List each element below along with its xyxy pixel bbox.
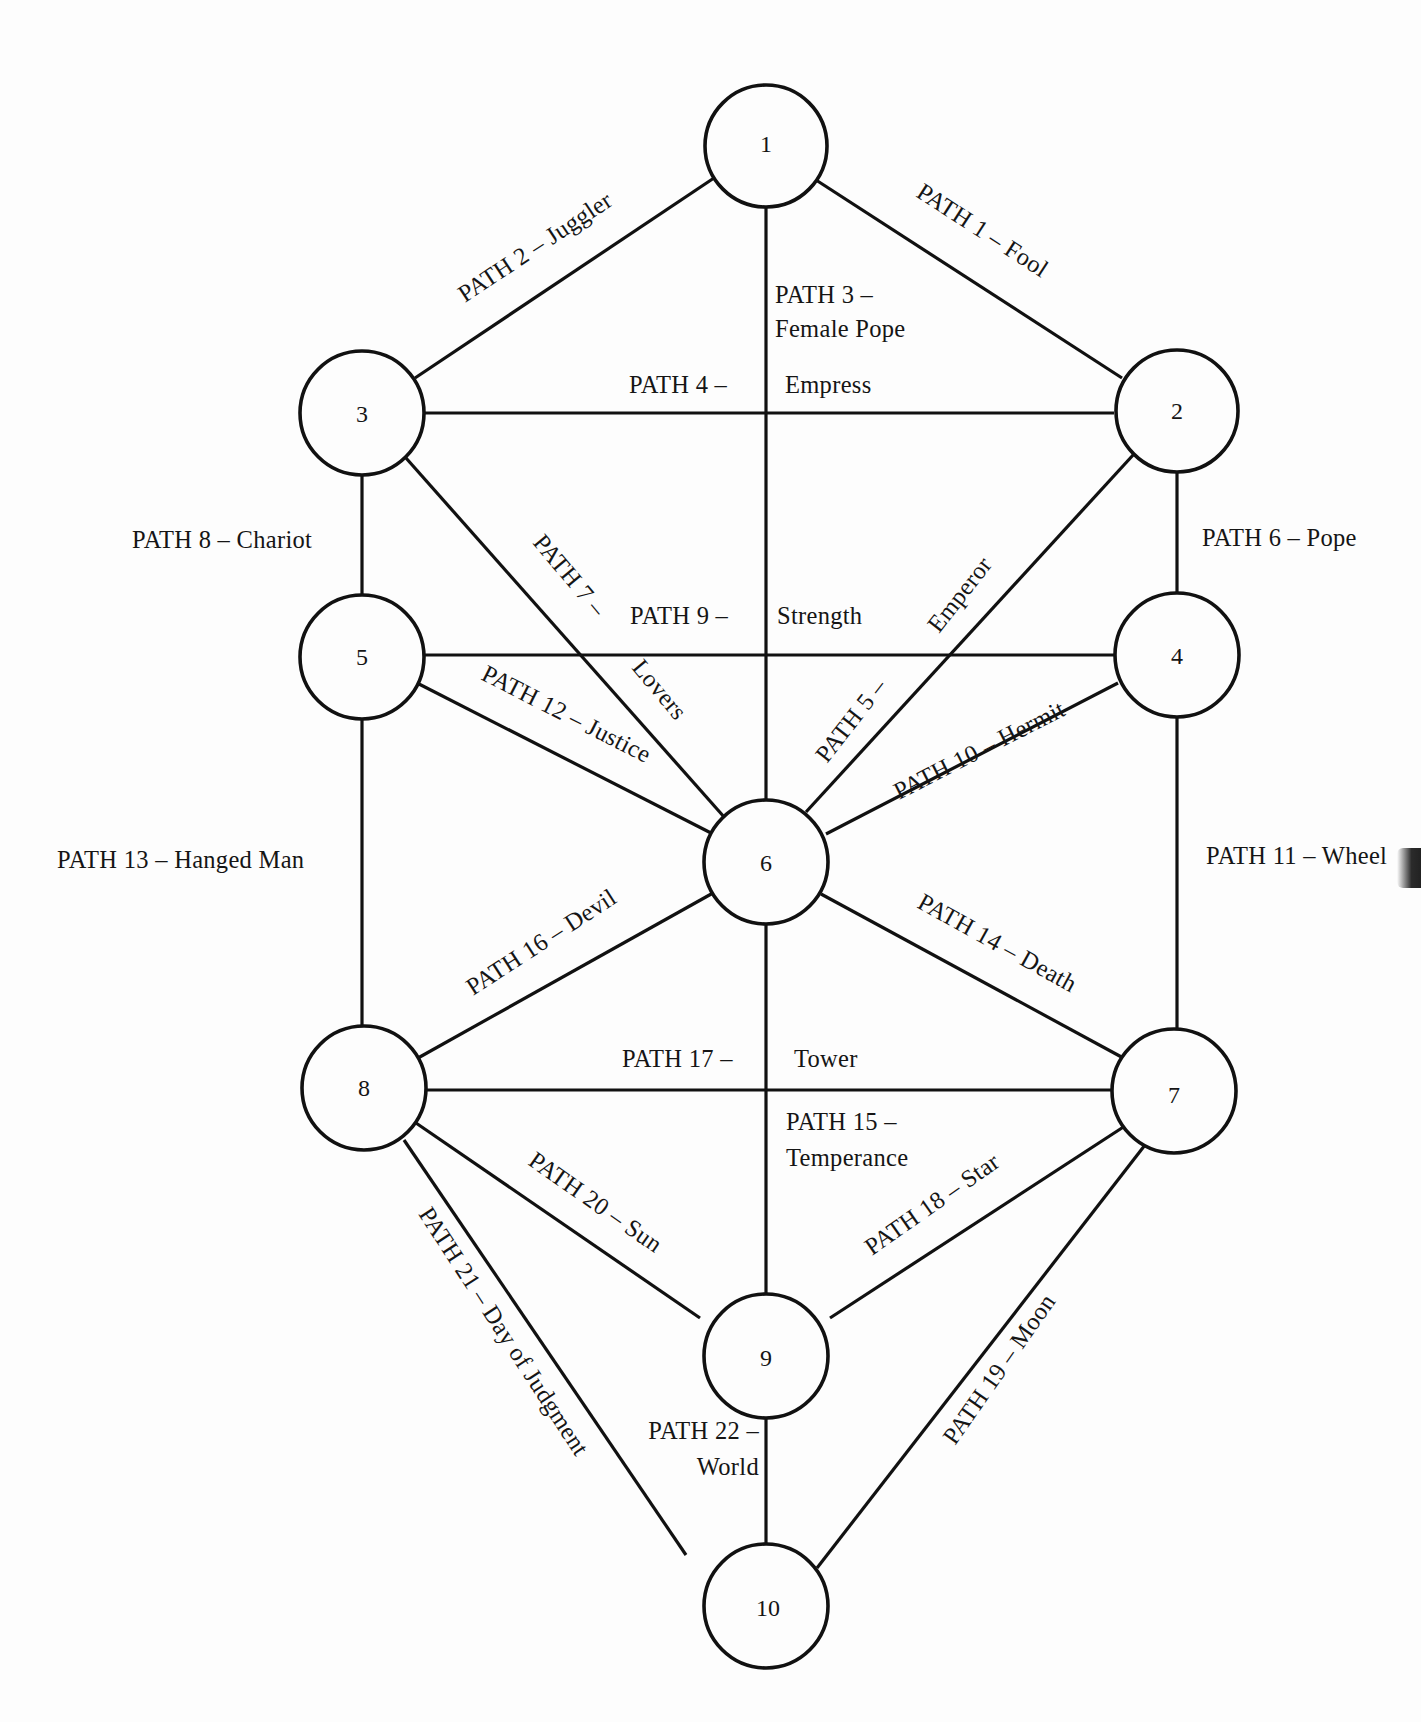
path-2-label: PATH 2 – Juggler bbox=[453, 186, 617, 307]
path-19-line bbox=[817, 1145, 1145, 1568]
node-2: 2 bbox=[1116, 350, 1238, 472]
node-3: 3 bbox=[300, 351, 424, 475]
path-4-label-right: Empress bbox=[785, 371, 871, 398]
path-9-label-left: PATH 9 – bbox=[630, 602, 729, 629]
node-number: 5 bbox=[356, 644, 368, 670]
path-15-label-line1: PATH 15 – bbox=[786, 1108, 897, 1135]
path-10-label: PATH 10 – Hermit bbox=[889, 695, 1069, 805]
node-number: 1 bbox=[760, 131, 772, 157]
path-21-line bbox=[404, 1140, 686, 1555]
node-10: 10 bbox=[704, 1544, 828, 1668]
node-9: 9 bbox=[704, 1294, 828, 1418]
path-12-label: PATH 12 – Justice bbox=[478, 659, 656, 767]
node-7: 7 bbox=[1112, 1029, 1236, 1153]
node-4: 4 bbox=[1115, 593, 1239, 717]
path-9-label-right: Strength bbox=[777, 602, 862, 629]
node-number: 6 bbox=[760, 850, 772, 876]
node-5: 5 bbox=[300, 595, 424, 719]
path-13-label: PATH 13 – Hanged Man bbox=[57, 846, 304, 873]
path-17-label-left: PATH 17 – bbox=[622, 1045, 733, 1072]
tree-of-life-diagram: 1 2 3 4 5 6 7 8 9 10 PATH 1 – Fool P bbox=[0, 0, 1421, 1722]
node-number: 4 bbox=[1171, 643, 1183, 669]
path-20-label: PATH 20 – Sun bbox=[524, 1146, 667, 1258]
path-5-label-part1: PATH 5 – bbox=[810, 673, 892, 767]
path-4-label-left: PATH 4 – bbox=[629, 371, 728, 398]
node-number: 7 bbox=[1168, 1082, 1180, 1108]
node-number: 3 bbox=[356, 401, 368, 427]
node-1: 1 bbox=[705, 85, 827, 207]
path-2-line bbox=[415, 178, 714, 378]
path-11-label: PATH 11 – Wheel bbox=[1206, 842, 1387, 869]
path-22-label-line2: World bbox=[697, 1453, 759, 1480]
path-5-label-part2: Emperor bbox=[922, 551, 997, 637]
node-number: 2 bbox=[1171, 398, 1183, 424]
path-17-label-right: Tower bbox=[794, 1045, 858, 1072]
path-14-label: PATH 14 – Death bbox=[914, 888, 1082, 997]
path-1-label: PATH 1 – Fool bbox=[912, 178, 1053, 283]
path-8-label: PATH 8 – Chariot bbox=[132, 526, 312, 553]
path-15-label-line2: Temperance bbox=[786, 1144, 908, 1171]
path-3-label-line1: PATH 3 – bbox=[775, 281, 874, 308]
path-3-label-line2: Female Pope bbox=[775, 315, 906, 342]
path-7-line bbox=[406, 458, 725, 818]
node-number: 10 bbox=[756, 1595, 780, 1621]
page-edge-shadow bbox=[1397, 848, 1421, 888]
path-22-label-line1: PATH 22 – bbox=[648, 1417, 759, 1444]
path-19-label: PATH 19 – Moon bbox=[937, 1288, 1061, 1448]
node-number: 8 bbox=[358, 1075, 370, 1101]
node-6: 6 bbox=[704, 800, 828, 924]
path-16-label: PATH 16 – Devil bbox=[461, 883, 621, 1000]
path-7-label-part2: Lovers bbox=[627, 654, 693, 725]
node-number: 9 bbox=[760, 1345, 772, 1371]
node-8: 8 bbox=[302, 1026, 426, 1150]
path-21-label: PATH 21 – Day of Judgment bbox=[414, 1202, 595, 1460]
path-6-label: PATH 6 – Pope bbox=[1202, 524, 1357, 551]
